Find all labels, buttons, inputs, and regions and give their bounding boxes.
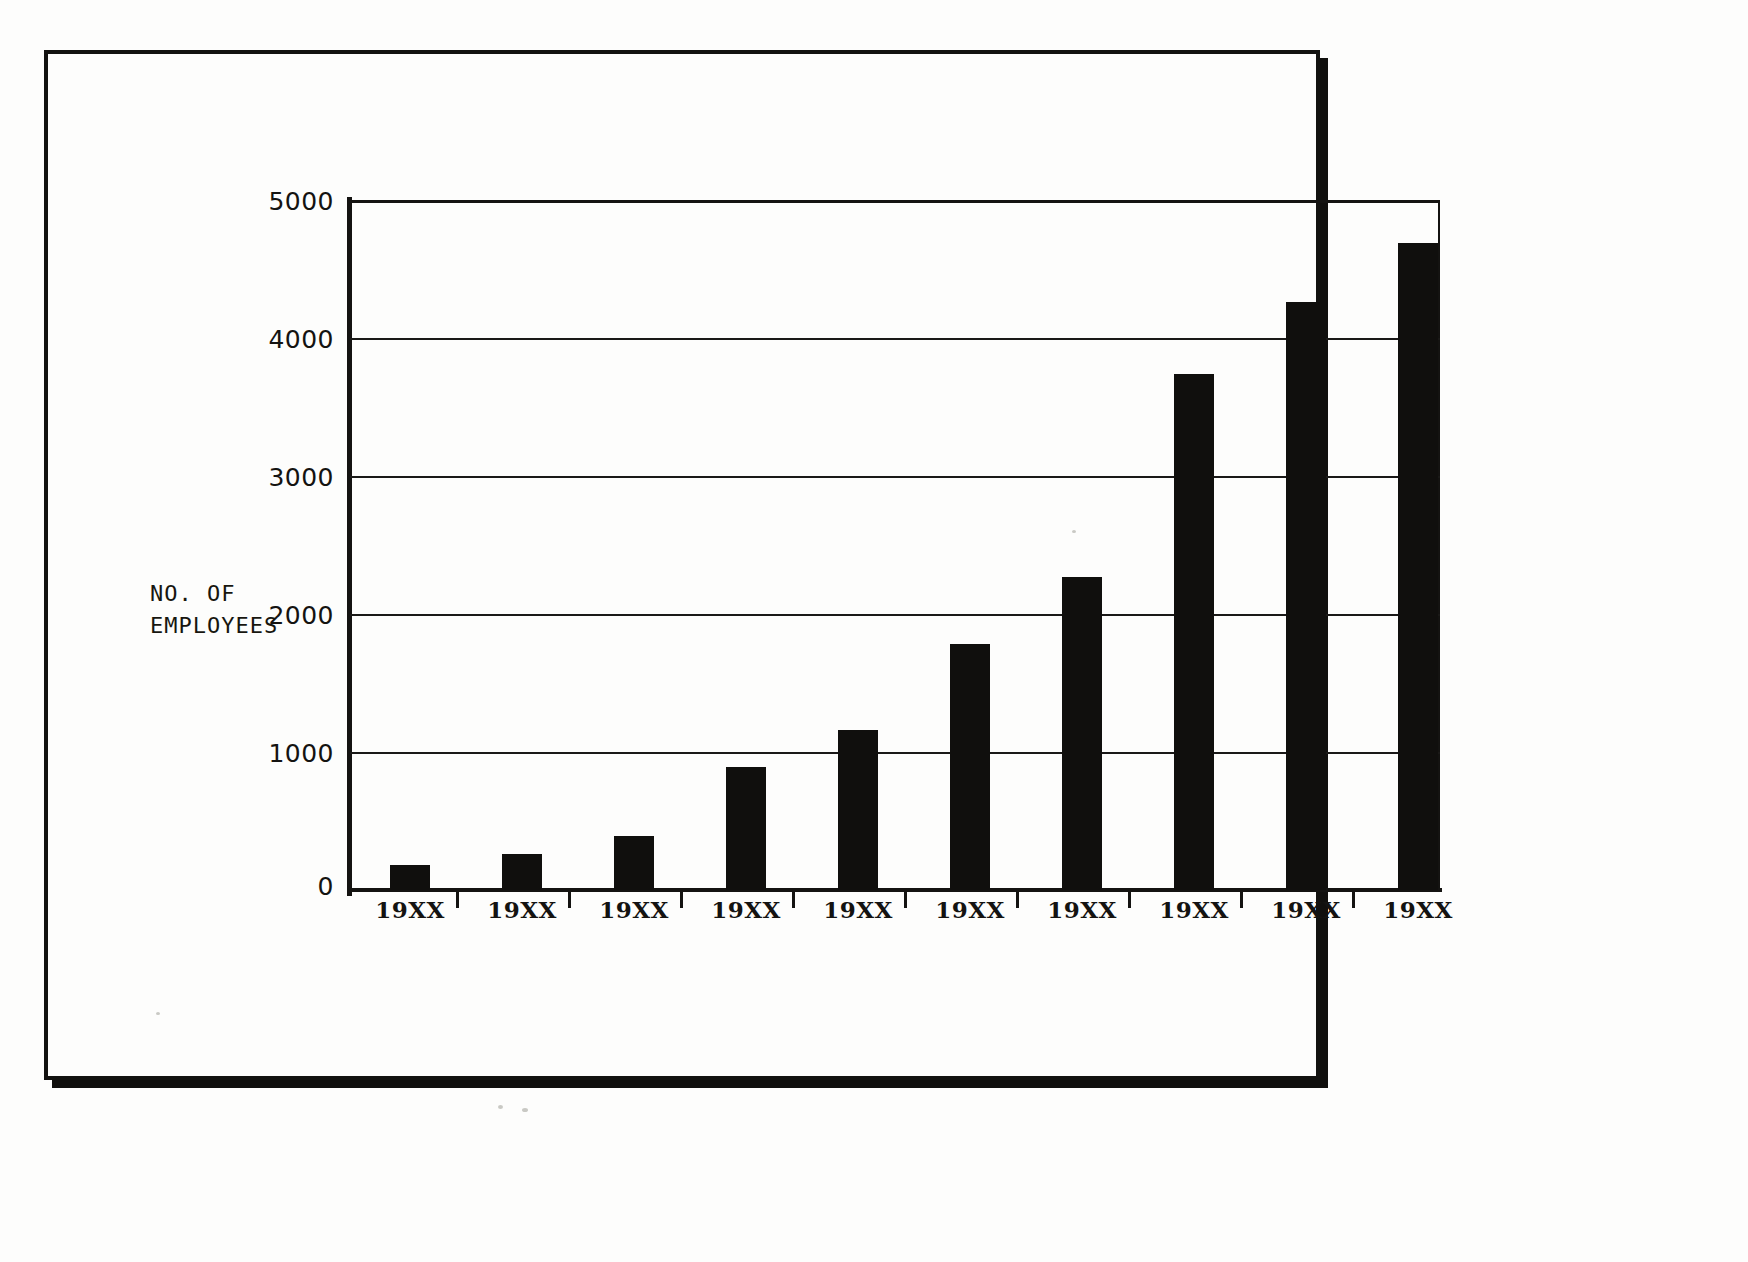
gridline-1000 [350, 752, 1440, 754]
x-tick-5 [904, 892, 907, 908]
y-tick-label-1000: 1000 [268, 739, 334, 768]
bar-7 [1062, 577, 1102, 890]
scan-speck [498, 1105, 503, 1109]
x-tick-9 [1352, 892, 1355, 908]
bar-2 [502, 854, 542, 890]
x-tick-1 [456, 892, 459, 908]
plot-right-border [1438, 200, 1440, 890]
plot-area [350, 200, 1440, 890]
gridline-4000 [350, 338, 1440, 340]
figure-page: NO. OF EMPLOYEES 5000 4000 3000 2000 100… [0, 0, 1748, 1262]
x-tick-6 [1016, 892, 1019, 908]
x-axis-label-4: 19XX [706, 896, 786, 923]
bar-3 [614, 836, 654, 890]
y-tick-label-2000: 2000 [268, 601, 334, 630]
bar-1 [390, 865, 430, 890]
bar-9 [1286, 302, 1326, 890]
y-tick-label-4000: 4000 [268, 325, 334, 354]
plot-top-border [350, 200, 1440, 203]
gridline-2000 [350, 614, 1440, 616]
x-tick-3 [680, 892, 683, 908]
x-axis-label-1: 19XX [370, 896, 450, 923]
bar-10 [1398, 243, 1438, 890]
y-tick-label-0: 0 [318, 872, 334, 901]
x-tick-4 [792, 892, 795, 908]
y-tick-label-3000: 3000 [268, 463, 334, 492]
bar-4 [726, 767, 766, 890]
x-tick-2 [568, 892, 571, 908]
x-axis-label-8: 19XX [1154, 896, 1234, 923]
scan-speck [1072, 530, 1076, 533]
x-tick-7 [1128, 892, 1131, 908]
y-tick-label-5000: 5000 [268, 187, 334, 216]
scan-speck [522, 1108, 528, 1112]
x-axis-label-7: 19XX [1042, 896, 1122, 923]
x-axis-label-5: 19XX [818, 896, 898, 923]
x-axis-label-2: 19XX [482, 896, 562, 923]
bar-6 [950, 644, 990, 890]
x-axis-label-10: 19XX [1378, 896, 1458, 923]
gridline-3000 [350, 476, 1440, 478]
x-axis-label-6: 19XX [930, 896, 1010, 923]
bar-8 [1174, 374, 1214, 890]
bar-5 [838, 730, 878, 890]
x-axis-label-9: 19XX [1266, 896, 1346, 923]
x-tick-8 [1240, 892, 1243, 908]
scan-speck [156, 1012, 160, 1015]
x-axis-label-3: 19XX [594, 896, 674, 923]
